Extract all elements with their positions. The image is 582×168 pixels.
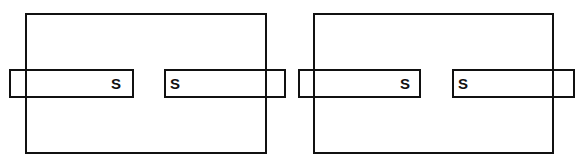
pole-label: S xyxy=(170,76,180,91)
right-panel-right-magnet xyxy=(452,69,575,98)
pole-label: S xyxy=(111,76,121,91)
pole-label: S xyxy=(458,76,468,91)
pole-label: S xyxy=(400,76,410,91)
left-panel-right-magnet xyxy=(164,69,286,98)
